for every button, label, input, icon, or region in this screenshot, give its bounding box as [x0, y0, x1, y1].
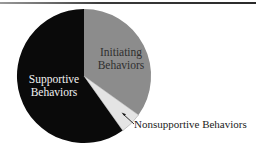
label-initiating: Initiating Behaviors [96, 46, 146, 72]
label-supportive: Supportive Behaviors [22, 73, 86, 99]
label-initiating-line1: Initiating [96, 46, 146, 59]
label-nonsupportive: Nonsupportive Behaviors [134, 118, 247, 131]
label-initiating-line2: Behaviors [96, 59, 146, 72]
label-supportive-line1: Supportive [22, 73, 86, 86]
label-supportive-line2: Behaviors [22, 86, 86, 99]
